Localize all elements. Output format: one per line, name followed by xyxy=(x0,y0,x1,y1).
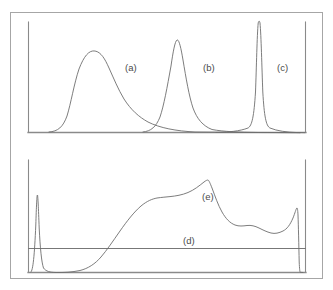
plot-figure: (a) (b) (c) (e) (d) xyxy=(0,0,333,290)
curve-b xyxy=(143,40,300,133)
curve-c xyxy=(216,21,305,133)
figure-frame xyxy=(11,13,323,279)
top-panel: (a) (b) (c) xyxy=(28,21,306,133)
label-e: (e) xyxy=(202,191,214,202)
bottom-panel: (e) (d) xyxy=(28,160,306,273)
label-a: (a) xyxy=(125,62,137,73)
label-b: (b) xyxy=(203,62,215,73)
label-d: (d) xyxy=(183,235,195,246)
curve-e xyxy=(31,180,303,273)
label-c: (c) xyxy=(277,62,288,73)
figure-root: (a) (b) (c) (e) (d) xyxy=(0,0,333,290)
